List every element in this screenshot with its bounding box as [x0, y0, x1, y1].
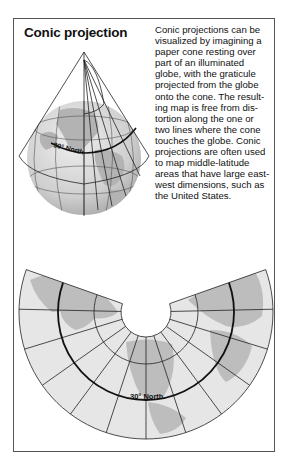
conic-map: 30° North: [0, 0, 286, 471]
map-30n-label: 30° North: [130, 392, 164, 401]
